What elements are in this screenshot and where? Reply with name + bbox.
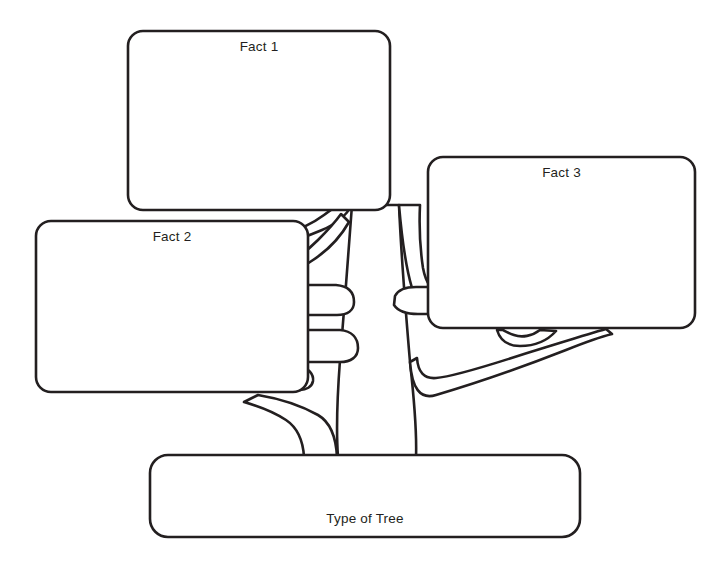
tree-illustration: [0, 0, 723, 564]
type-of-tree-label: Type of Tree: [150, 511, 580, 527]
fact3-label: Fact 3: [428, 165, 695, 181]
fact2-box[interactable]: [36, 221, 308, 392]
branch-fact3-lower-hook: [497, 330, 556, 346]
fact1-box[interactable]: [128, 31, 390, 210]
fact1-label: Fact 1: [128, 39, 390, 55]
tree-diagram-canvas: Fact 1 Fact 2 Fact 3 Type of Tree: [0, 0, 723, 564]
branch-lower-left: [244, 395, 337, 457]
fact2-label: Fact 2: [36, 229, 308, 245]
fact3-box[interactable]: [428, 157, 695, 328]
